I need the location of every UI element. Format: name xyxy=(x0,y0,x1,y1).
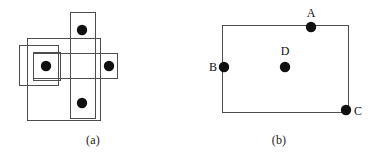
point-right xyxy=(104,61,114,71)
point-left xyxy=(41,61,51,71)
rect-left-outer xyxy=(20,46,59,86)
caption-b: (b) xyxy=(186,133,372,147)
panel-a-drawing xyxy=(0,0,186,130)
point-a xyxy=(306,22,316,32)
label-c: C xyxy=(354,104,362,118)
point-top xyxy=(77,25,87,35)
panel-a: (a) xyxy=(0,0,186,162)
panel-b: A B C D (b) xyxy=(186,0,372,162)
point-c xyxy=(341,105,351,115)
label-d: D xyxy=(281,44,290,58)
panel-b-drawing: A B C D xyxy=(186,0,372,130)
caption-a: (a) xyxy=(0,133,186,147)
point-bottom xyxy=(77,98,87,108)
rect-outer-bounding xyxy=(28,39,101,121)
point-b xyxy=(219,62,229,72)
label-b: B xyxy=(209,60,217,74)
figure-root: (a) A B C D (b) xyxy=(0,0,372,162)
label-a: A xyxy=(307,6,316,20)
point-d xyxy=(280,62,290,72)
